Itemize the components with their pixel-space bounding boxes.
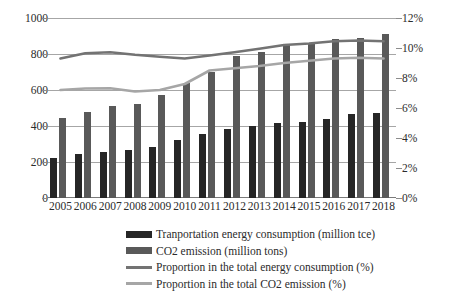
legend-label: Proportion in the total energy consumpti… xyxy=(156,259,374,276)
y-axis-right-tick-mark xyxy=(396,138,402,139)
y-axis-right-tick-mark xyxy=(396,18,402,19)
line-group xyxy=(48,18,396,198)
legend-item[interactable]: Proportion in the total CO2 emission (%) xyxy=(126,276,436,293)
legend-label: CO2 emission (million tons) xyxy=(156,243,287,260)
x-axis-tick-label: 2008 xyxy=(124,200,147,212)
legend-item[interactable]: Tranportation energy consumption (millio… xyxy=(126,226,436,243)
chart-container: 02004006008001000 0%2%4%6%8%10%12% 20052… xyxy=(0,0,450,305)
y-axis-left-tick-mark xyxy=(42,54,48,55)
chart-legend: Tranportation energy consumption (millio… xyxy=(126,226,436,292)
x-axis-tick-label: 2016 xyxy=(322,200,345,212)
y-axis-right-tick-label: 2% xyxy=(402,162,417,174)
legend-item[interactable]: Proportion in the total energy consumpti… xyxy=(126,259,436,276)
legend-line-swatch-icon xyxy=(126,282,152,285)
legend-bar-swatch-icon xyxy=(126,231,152,238)
y-axis-right-tick-mark xyxy=(396,78,402,79)
y-axis-right-tick-label: 4% xyxy=(402,132,417,144)
y-axis-right-tick-mark xyxy=(396,48,402,49)
legend-line-swatch-icon xyxy=(126,266,152,269)
y-axis-right-tick-mark xyxy=(396,168,402,169)
x-axis-tick-label: 2018 xyxy=(372,200,395,212)
y-axis-right-tick-mark xyxy=(396,198,402,199)
legend-bar-swatch-icon xyxy=(126,247,152,254)
y-axis-left-tick-mark xyxy=(42,18,48,19)
x-axis-tick-label: 2009 xyxy=(148,200,171,212)
x-axis-tick-label: 2006 xyxy=(74,200,97,212)
y-axis-right-tick-label: 10% xyxy=(402,42,423,54)
x-axis-tick-label: 2005 xyxy=(49,200,72,212)
y-axis-right-tick-label: 12% xyxy=(402,12,423,24)
x-axis-tick-label: 2014 xyxy=(273,200,296,212)
x-axis-tick-label: 2013 xyxy=(248,200,271,212)
y-axis-left-tick-mark xyxy=(42,90,48,91)
x-axis-tick-label: 2015 xyxy=(298,200,321,212)
y-axis-left-tick-mark xyxy=(42,162,48,163)
legend-label: Tranportation energy consumption (millio… xyxy=(156,226,375,243)
y-axis-right-tick-mark xyxy=(396,108,402,109)
data-line xyxy=(60,58,383,92)
x-axis-tick-label: 2007 xyxy=(99,200,122,212)
data-line xyxy=(60,41,383,59)
legend-item[interactable]: CO2 emission (million tons) xyxy=(126,243,436,260)
x-axis-tick-label: 2012 xyxy=(223,200,246,212)
y-axis-left-tick-mark xyxy=(42,198,48,199)
y-axis-right-tick-label: 0% xyxy=(402,192,417,204)
y-axis-right-tick-label: 6% xyxy=(402,102,417,114)
plot-area xyxy=(48,18,396,198)
x-axis-tick-label: 2011 xyxy=(198,200,221,212)
x-axis-ticks: 2005200620072008200920102011201220132014… xyxy=(48,200,396,218)
y-axis-left-tick-mark xyxy=(42,126,48,127)
x-axis-tick-label: 2010 xyxy=(173,200,196,212)
y-axis-right-tick-label: 8% xyxy=(402,72,417,84)
x-axis-tick-label: 2017 xyxy=(347,200,370,212)
legend-label: Proportion in the total CO2 emission (%) xyxy=(156,276,346,293)
